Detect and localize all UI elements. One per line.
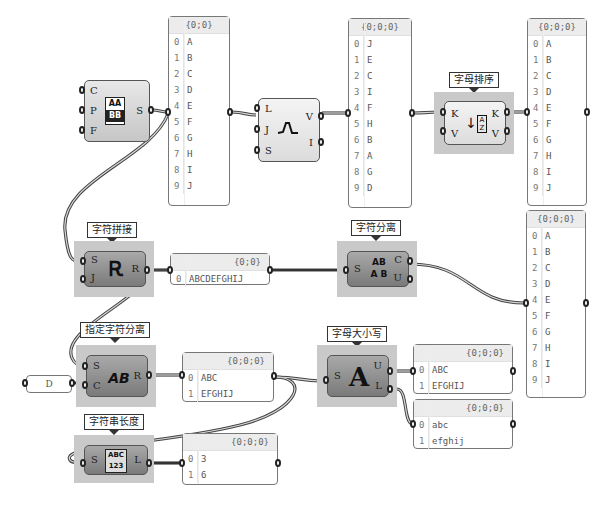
grip-c[interactable] xyxy=(79,86,85,94)
sort-tag: 字母排序 xyxy=(449,72,499,88)
grip-s[interactable] xyxy=(80,459,86,467)
panel-lower[interactable]: {0;0;0} 0abc 1efghij xyxy=(413,399,513,449)
text-case-component[interactable]: S U L A xyxy=(327,355,389,397)
panel-sorted-out[interactable] xyxy=(584,108,590,116)
separator-panel[interactable]: D xyxy=(26,375,72,393)
input-k[interactable]: K xyxy=(451,108,458,119)
grip-r[interactable] xyxy=(144,266,150,274)
split-text-component[interactable]: S C R AB xyxy=(86,355,148,397)
input-j[interactable]: J xyxy=(91,272,95,283)
output-s[interactable]: S xyxy=(136,105,143,116)
input-c[interactable]: C xyxy=(93,380,101,391)
grip-s[interactable] xyxy=(323,376,329,384)
panel-lengths-out[interactable] xyxy=(275,459,281,467)
input-s[interactable]: S xyxy=(334,370,341,381)
grip-p[interactable] xyxy=(79,106,85,114)
output-v[interactable]: V xyxy=(492,128,499,139)
jitter-component[interactable]: L J S V I xyxy=(258,98,320,162)
input-s[interactable]: S xyxy=(91,454,98,465)
panel-split-in[interactable] xyxy=(179,371,185,379)
panel-source-out[interactable] xyxy=(227,108,233,116)
grip-v[interactable] xyxy=(318,112,324,120)
output-u[interactable]: U xyxy=(374,360,382,371)
panel-lengths[interactable]: {0;0;0} 03 16 xyxy=(182,433,278,485)
grip-r[interactable] xyxy=(146,371,152,379)
panel-lower-in[interactable] xyxy=(410,420,416,428)
grip-j[interactable] xyxy=(254,125,260,133)
panel-row: 4E xyxy=(527,292,585,308)
panel-joined-in[interactable] xyxy=(167,266,173,274)
output-l[interactable]: L xyxy=(375,380,382,391)
grip-l[interactable] xyxy=(146,459,152,467)
panel-lengths-in[interactable] xyxy=(179,459,185,467)
panel-jittered-in[interactable] xyxy=(345,109,351,117)
grip-f[interactable] xyxy=(79,126,85,134)
panel-jittered-out[interactable] xyxy=(409,109,415,117)
panel-joined[interactable]: {0;0} 0ABCDEFGHIJ xyxy=(170,253,270,285)
input-s[interactable]: S xyxy=(91,254,98,265)
separator-in[interactable] xyxy=(22,379,28,387)
format-component[interactable]: C P F S AA BB xyxy=(84,80,150,142)
grasshopper-canvas[interactable]: C P F S AA BB {0;0} 0A 1B 2C 3D 4E 5F 6G… xyxy=(0,0,611,506)
grip-u[interactable] xyxy=(387,367,393,375)
output-r[interactable]: R xyxy=(133,370,141,381)
panel-upper-in[interactable] xyxy=(410,367,416,375)
panel-chars-in[interactable] xyxy=(523,299,529,307)
panel-jittered[interactable]: {0;0;0} 0J 1E 2C 3I 4F 5H 6B 7A 8G 9D xyxy=(348,18,412,208)
input-c[interactable]: C xyxy=(90,85,98,96)
grip-v-out[interactable] xyxy=(504,127,510,135)
input-s[interactable]: S xyxy=(265,145,272,156)
panel-upper[interactable]: {0;0;0} 0ABC 1EFGHIJ xyxy=(413,344,513,394)
grip-c[interactable] xyxy=(407,257,413,265)
grip-s[interactable] xyxy=(82,362,88,370)
output-v[interactable]: V xyxy=(306,111,313,122)
characters-component[interactable]: S C U AB A B xyxy=(347,251,409,287)
panel-upper-out[interactable] xyxy=(510,367,516,375)
output-i[interactable]: I xyxy=(309,137,313,148)
panel-split-out[interactable] xyxy=(271,372,277,380)
panel-header: {0;0;0} xyxy=(183,353,273,370)
grip-s[interactable] xyxy=(343,266,349,274)
panel-split-result[interactable]: {0;0;0} 0ABC 1EFGHIJ xyxy=(182,352,274,402)
separator-out[interactable] xyxy=(69,379,75,387)
input-v[interactable]: V xyxy=(451,128,458,139)
panel-row: 3D xyxy=(528,84,586,100)
panel-chars[interactable]: {0;0;0} 0A 1B 2C 3D 4E 5F 6G 7H 8I 9J xyxy=(526,210,586,398)
sort-az-icon: ↓AZ xyxy=(465,110,487,136)
grip-u[interactable] xyxy=(407,275,413,283)
grip-c[interactable] xyxy=(82,381,88,389)
input-j[interactable]: J xyxy=(265,124,269,135)
concatenate-component[interactable]: S J R Ꭱ xyxy=(84,251,146,287)
panel-chars-out[interactable] xyxy=(583,299,589,307)
text-length-component[interactable]: S L ABC 123 xyxy=(84,445,148,475)
grip-v-in[interactable] xyxy=(440,127,446,135)
panel-joined-out[interactable] xyxy=(267,266,273,274)
input-f[interactable]: F xyxy=(90,125,97,136)
grip-k-out[interactable] xyxy=(504,108,510,116)
output-k[interactable]: K xyxy=(492,108,499,119)
grip-s[interactable] xyxy=(80,257,86,265)
grip-i[interactable] xyxy=(318,138,324,146)
panel-source[interactable]: {0;0} 0A 1B 2C 3D 4E 5F 6G 7H 8I 9J xyxy=(168,16,230,206)
panel-sorted-in[interactable] xyxy=(524,108,530,116)
input-s[interactable]: S xyxy=(354,263,361,274)
grip-j[interactable] xyxy=(80,275,86,283)
grip-k-in[interactable] xyxy=(440,108,446,116)
input-s[interactable]: S xyxy=(93,360,100,371)
output-c[interactable]: C xyxy=(394,254,402,265)
panel-row: 3I xyxy=(349,84,411,100)
grip-l[interactable] xyxy=(387,385,393,393)
sort-component[interactable]: K V K V ↓AZ xyxy=(444,101,506,145)
panel-sorted[interactable]: {0;0;0} 0A 1B 2C 3D 4E 5F 6G 7H 8I 9J xyxy=(527,18,587,206)
input-l[interactable]: L xyxy=(265,103,272,114)
panel-source-in[interactable] xyxy=(165,108,171,116)
input-p[interactable]: P xyxy=(90,105,97,116)
grip-s-out[interactable] xyxy=(148,106,154,114)
grip-s[interactable] xyxy=(254,146,260,154)
panel-row: 5H xyxy=(349,116,411,132)
output-l[interactable]: L xyxy=(134,454,141,465)
grip-l[interactable] xyxy=(254,104,260,112)
output-r[interactable]: R xyxy=(131,263,139,274)
panel-lower-out[interactable] xyxy=(510,420,516,428)
output-u[interactable]: U xyxy=(394,272,402,283)
